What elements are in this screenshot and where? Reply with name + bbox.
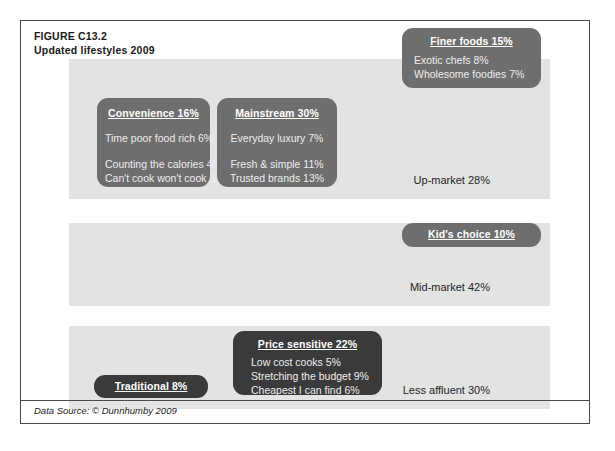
segment-item: Counting the calories 4%: [105, 157, 202, 171]
segment-item: Wholesome foodies 7%: [414, 67, 531, 81]
segment-item: Fresh & simple 11%: [225, 157, 329, 171]
band-label-up-market: Up-market 28%: [414, 174, 490, 186]
segment-box-mainstream[interactable]: Mainstream 30% Everyday luxury 7% Fresh …: [217, 98, 337, 187]
segment-title-convenience: Convenience 16%: [105, 107, 202, 119]
figure-header: FIGURE C13.2 Updated lifestyles 2009: [34, 29, 454, 57]
segment-item: Stretching the budget 9%: [251, 369, 372, 383]
segment-item: Exotic chefs 8%: [414, 53, 531, 67]
figure-number: FIGURE C13.2: [34, 29, 454, 43]
segment-item: Everyday luxury 7%: [225, 131, 329, 145]
segment-item: Time poor food rich 6%: [105, 131, 202, 145]
figure-frame: FIGURE C13.2 Updated lifestyles 2009 Up-…: [20, 20, 590, 424]
segment-title-traditional: Traditional 8%: [102, 380, 200, 392]
segment-item: Can't cook won't cook 5%: [105, 171, 202, 185]
band-label-less-affluent: Less affluent 30%: [403, 384, 490, 396]
figure-footer: Data Source: © Dunnhumby 2009: [21, 400, 589, 423]
segment-title-kids-choice: Kid's choice 10%: [410, 228, 533, 240]
segment-box-convenience[interactable]: Convenience 16% Time poor food rich 6% C…: [97, 98, 210, 187]
segment-box-finer-foods[interactable]: Finer foods 15% Exotic chefs 8% Wholesom…: [402, 28, 541, 88]
segment-box-traditional[interactable]: Traditional 8%: [94, 375, 208, 398]
band-label-mid-market: Mid-market 42%: [410, 281, 490, 293]
segment-item: Low cost cooks 5%: [251, 355, 372, 369]
segment-title-price-sensitive: Price sensitive 22%: [243, 338, 372, 350]
segment-box-kids-choice[interactable]: Kid's choice 10%: [402, 223, 541, 247]
figure-title: Updated lifestyles 2009: [34, 43, 454, 57]
segment-title-finer-foods: Finer foods 15%: [412, 35, 531, 47]
segment-box-price-sensitive[interactable]: Price sensitive 22% Low cost cooks 5% St…: [233, 331, 382, 395]
segment-item: Trusted brands 13%: [225, 171, 329, 185]
source-text: Data Source: © Dunnhumby 2009: [34, 405, 177, 416]
segment-title-mainstream: Mainstream 30%: [225, 107, 329, 119]
segment-item: Cheapest I can find 6%: [251, 383, 372, 397]
